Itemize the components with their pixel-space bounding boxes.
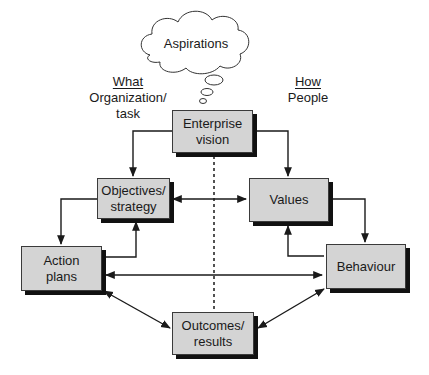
values-box: Values (249, 178, 329, 222)
objectives-strategy-box: Objectives/strategy (97, 178, 170, 219)
what-header: What Organization/ task (78, 74, 178, 122)
box-line: plans (43, 269, 79, 285)
box-line: Objectives/ (101, 183, 165, 199)
box-line: Behaviour (337, 259, 396, 275)
box-line: Outcomes/ (182, 318, 245, 334)
behaviour-box: Behaviour (326, 244, 406, 289)
what-subtitle-line1: Organization/ (78, 90, 178, 106)
action-plans-box: Actionplans (21, 246, 102, 291)
outcomes-results-box: Outcomes/results (172, 312, 254, 355)
box-line: Enterprise (183, 116, 242, 132)
how-title: How (268, 74, 348, 90)
box-line: Values (270, 192, 309, 208)
how-subtitle: People (268, 90, 348, 106)
how-header: How People (268, 74, 348, 106)
what-subtitle-line2: task (78, 106, 178, 122)
aspirations-label: Aspirations (146, 36, 246, 51)
box-line: results (182, 334, 245, 350)
box-line: vision (183, 132, 242, 148)
enterprise-vision-box: Enterprisevision (172, 110, 253, 153)
what-title: What (78, 74, 178, 90)
box-line: strategy (101, 199, 165, 215)
box-line: Action (43, 253, 79, 269)
